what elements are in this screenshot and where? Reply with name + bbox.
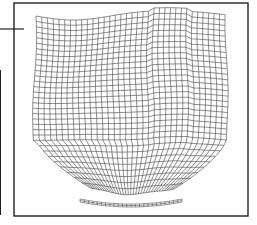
mesh-diagram: [0, 0, 257, 225]
strip-mesh: [80, 199, 182, 207]
main-mesh: [33, 8, 229, 195]
